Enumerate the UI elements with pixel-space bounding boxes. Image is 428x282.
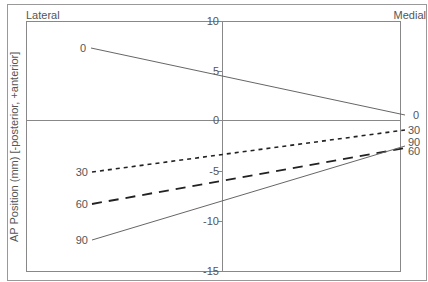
lateral-label: Lateral	[26, 9, 60, 21]
series-label: 30	[76, 166, 88, 178]
tick-label: -10	[203, 215, 219, 227]
tick-label: 0	[213, 114, 219, 126]
series-label: 30	[408, 124, 420, 136]
series-label: 90	[76, 234, 88, 246]
series-30-line	[92, 130, 405, 172]
series-90-line	[92, 146, 405, 240]
tick-label: -15	[203, 265, 219, 277]
medial-label: Medial	[394, 9, 426, 21]
outer-frame	[8, 5, 427, 281]
series-0-line	[91, 48, 405, 115]
tick-label: 10	[207, 15, 219, 27]
series-60-line	[92, 148, 405, 204]
series-label: 0	[80, 42, 86, 54]
y-axis-label: AP Position (mm) [-posterior, +anterior]	[8, 52, 20, 242]
series-label: 60	[408, 145, 420, 157]
tick-label: -5	[209, 165, 219, 177]
series-label: 0	[413, 109, 419, 121]
chart: 10 5 0 -5 -10 -15 Lateral Medial AP Posi…	[0, 0, 428, 282]
y-ticks	[218, 22, 222, 272]
series-label: 60	[76, 198, 88, 210]
